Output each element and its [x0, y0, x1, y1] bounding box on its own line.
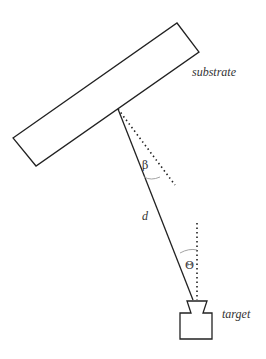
beta-arc: [144, 177, 160, 179]
theta-label: Θ: [185, 259, 194, 272]
target-label: target: [222, 307, 251, 321]
beta-label: β: [142, 159, 148, 172]
substrate-plate: [13, 23, 199, 166]
distance-label: d: [142, 209, 149, 223]
target-block: [180, 301, 212, 339]
distance-line: [118, 109, 193, 300]
substrate-normal-line: [118, 109, 175, 185]
theta-arc: [180, 249, 197, 253]
substrate-label: substrate: [192, 65, 237, 79]
diagram-canvas: substrate target d β Θ: [0, 0, 266, 359]
